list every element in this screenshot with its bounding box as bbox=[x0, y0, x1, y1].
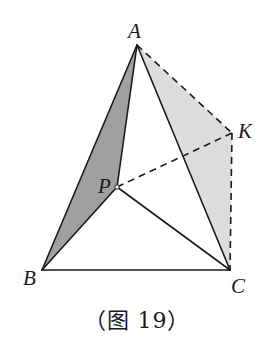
geometry-figure: A K P B C （图 19） bbox=[0, 0, 274, 358]
vertex-label-P: P bbox=[98, 176, 111, 197]
vertex-label-C: C bbox=[231, 276, 245, 297]
vertex-label-K: K bbox=[238, 121, 252, 142]
edge-AB bbox=[42, 45, 137, 270]
vertex-label-A: A bbox=[128, 21, 141, 42]
vertex-label-B: B bbox=[23, 268, 36, 289]
pyramid-diagram bbox=[0, 0, 274, 358]
figure-caption: （图 19） bbox=[0, 310, 274, 332]
point-P-marker bbox=[115, 185, 119, 189]
